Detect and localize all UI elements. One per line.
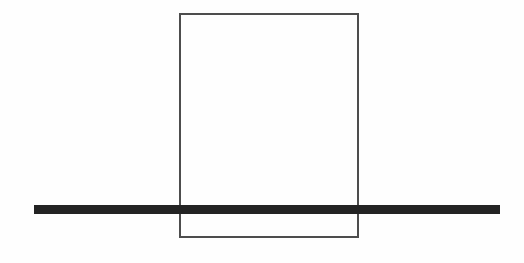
canvas-background <box>0 0 524 263</box>
drawing-canvas <box>0 0 524 263</box>
horizontal-bar <box>34 205 500 214</box>
line-drawing-figure <box>0 0 524 263</box>
